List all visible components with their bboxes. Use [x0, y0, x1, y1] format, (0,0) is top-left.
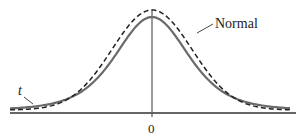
t-label: t [18, 84, 22, 98]
zero-tick-label: 0 [148, 122, 155, 135]
normal-leader-line [197, 24, 213, 33]
t-leader-line [24, 97, 33, 104]
normal-label: Normal [215, 17, 258, 31]
normal-vs-t-diagram: Normal t 0 [0, 0, 298, 138]
